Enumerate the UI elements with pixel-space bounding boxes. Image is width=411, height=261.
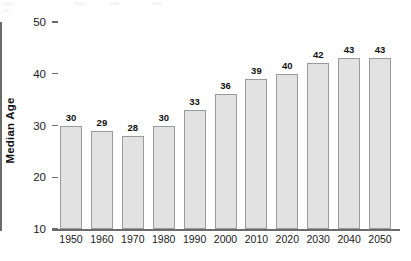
bar-value-label: 43 [375, 44, 386, 55]
bar-value-label: 33 [189, 96, 200, 107]
y-axis-tick [52, 21, 58, 22]
scan-artifact [74, 2, 84, 5]
x-axis-tick-label: 2000 [214, 233, 237, 245]
bar-1970[interactable] [122, 136, 144, 229]
bar-2040[interactable] [338, 58, 360, 229]
bar-group[interactable]: 40 [276, 0, 298, 229]
bar-group[interactable]: 29 [91, 0, 113, 229]
scan-artifact [4, 2, 12, 5]
x-axis-tick-label: 1980 [152, 233, 175, 245]
bar-value-label: 42 [313, 49, 324, 60]
x-axis-tick-label: 1970 [121, 233, 144, 245]
bar-value-label: 43 [344, 44, 355, 55]
x-axis-line [52, 229, 400, 231]
y-axis-tick-label: 20 [22, 171, 46, 183]
x-axis-tick-label: 1990 [183, 233, 206, 245]
bar-value-label: 40 [282, 60, 293, 71]
y-axis-tick-label: 10 [22, 223, 46, 235]
bar-value-label: 30 [158, 112, 169, 123]
bar-value-label: 36 [220, 80, 231, 91]
y-axis-title: Median Age [0, 0, 20, 261]
x-axis-tick-label: 1950 [59, 233, 82, 245]
x-axis-tick-label: 2010 [245, 233, 268, 245]
y-axis-tick [52, 73, 58, 74]
bar-value-label: 39 [251, 65, 262, 76]
bar-group[interactable]: 30 [153, 0, 175, 229]
bar-group[interactable]: 39 [245, 0, 267, 229]
bar-group[interactable]: 28 [122, 0, 144, 229]
bar-2050[interactable] [369, 58, 391, 229]
bar-1990[interactable] [184, 110, 206, 229]
scan-artifact [152, 2, 161, 5]
bar-group[interactable]: 43 [338, 0, 360, 229]
bar-value-label: 28 [128, 122, 139, 133]
bar-2020[interactable] [276, 74, 298, 229]
bar-value-label: 29 [97, 117, 108, 128]
bar-1980[interactable] [153, 126, 175, 230]
x-axis-tick-label: 2020 [276, 233, 299, 245]
bar-2000[interactable] [215, 94, 237, 229]
scan-artifact [110, 2, 119, 5]
x-axis-tick-label: 1960 [90, 233, 113, 245]
bar-group[interactable]: 43 [369, 0, 391, 229]
bar-value-label: 30 [66, 112, 77, 123]
bar-2030[interactable] [307, 63, 329, 229]
median-age-bar-chart: Median Age 1020304050 302928303336394042… [0, 0, 411, 261]
bar-1950[interactable] [60, 126, 82, 230]
y-axis-tick [52, 177, 58, 178]
y-axis-tick [52, 228, 58, 229]
bar-group[interactable]: 36 [215, 0, 237, 229]
x-axis-tick-label: 2050 [368, 233, 391, 245]
y-axis-tick-label: 40 [22, 68, 46, 80]
x-axis-tick-label: 2040 [337, 233, 360, 245]
bar-1960[interactable] [91, 131, 113, 229]
y-axis-tick-label: 50 [22, 16, 46, 28]
y-axis-tick-label: 30 [22, 120, 46, 132]
y-axis-line [0, 22, 2, 231]
bar-2010[interactable] [245, 79, 267, 229]
bar-group[interactable]: 42 [307, 0, 329, 229]
x-axis-tick-label: 2030 [307, 233, 330, 245]
bar-group[interactable]: 33 [184, 0, 206, 229]
y-axis-tick [52, 125, 58, 126]
bar-group[interactable]: 30 [60, 0, 82, 229]
scan-artifact [3, 9, 9, 12]
